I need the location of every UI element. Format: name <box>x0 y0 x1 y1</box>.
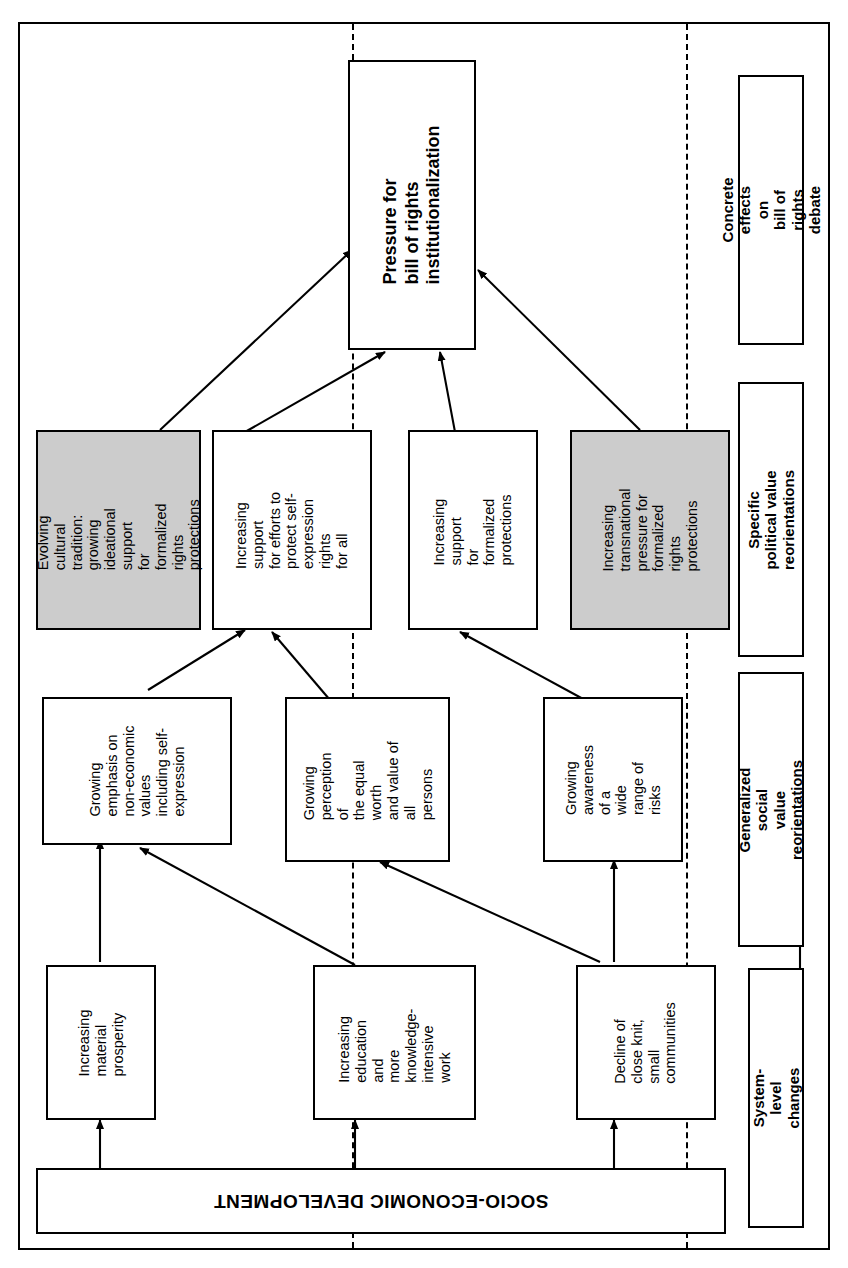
node-outcome-label: Pressure for bill of rights institutiona… <box>380 126 445 285</box>
node-equal-worth: Growing perception of the equal worth an… <box>285 697 450 862</box>
node-transnational-pressure-label: Increasing transnational pressure for fo… <box>600 488 701 571</box>
node-outcome: Pressure for bill of rights institutiona… <box>348 60 476 350</box>
node-education-knowledge-label: Increasing education and more knowledge-… <box>336 1003 454 1083</box>
band-legend-concrete-effects-label: Concrete effects on bill of rights debat… <box>719 177 823 242</box>
node-transnational-pressure: Increasing transnational pressure for fo… <box>570 430 730 630</box>
figure-canvas: Pressure for bill of rights institutiona… <box>0 0 848 1268</box>
node-support-formalized-protections: Increasing support for formalized protec… <box>408 430 538 630</box>
node-equal-worth-label: Growing perception of the equal worth an… <box>300 739 435 820</box>
band-legend-generalized-social: Generalized social value reorientations <box>738 672 804 947</box>
node-non-economic-values-label: Growing emphasis on non-economic values … <box>87 725 188 816</box>
node-awareness-risks: Growing awareness of a wide range of ris… <box>543 697 683 862</box>
node-evolving-cultural-tradition-label: Evolving cultural tradition: growing ide… <box>34 490 202 571</box>
node-support-self-expression: Increasing support for efforts to protec… <box>212 430 372 630</box>
node-awareness-risks-label: Growing awareness of a wide range of ris… <box>563 744 664 814</box>
node-socio-economic-development-label: SOCIO-ECONOMIC DEVELOPMENT <box>214 1190 549 1212</box>
node-decline-communities-label: Decline of close knit, small communities <box>612 1002 679 1083</box>
node-non-economic-values: Growing emphasis on non-economic values … <box>42 697 232 845</box>
band-legend-generalized-social-label: Generalized social value reorientations <box>736 759 806 859</box>
node-material-prosperity: Increasing material prosperity <box>46 965 156 1120</box>
node-decline-communities: Decline of close knit, small communities <box>576 965 716 1120</box>
band-legend-specific-political: Specific political value reorientations <box>738 382 804 657</box>
node-support-self-expression-label: Increasing support for efforts to protec… <box>233 491 351 569</box>
band-legend-system-level-label: System-level changes <box>750 1068 802 1129</box>
node-socio-economic-development: SOCIO-ECONOMIC DEVELOPMENT <box>36 1168 726 1234</box>
band-legend-concrete-effects: Concrete effects on bill of rights debat… <box>738 75 804 345</box>
node-education-knowledge: Increasing education and more knowledge-… <box>313 965 476 1120</box>
band-legend-system-level: System-level changes <box>748 968 804 1228</box>
node-material-prosperity-label: Increasing material prosperity <box>76 1009 126 1076</box>
node-evolving-cultural-tradition: Evolving cultural tradition: growing ide… <box>36 430 201 630</box>
band-legend-specific-political-label: Specific political value reorientations <box>745 469 797 569</box>
node-support-formalized-protections-label: Increasing support for formalized protec… <box>431 495 515 566</box>
